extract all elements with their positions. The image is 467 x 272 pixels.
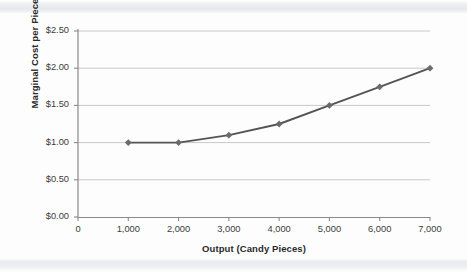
gridline-group bbox=[78, 31, 430, 180]
data-point-marker bbox=[376, 83, 383, 90]
y-tick-label: $1.00 bbox=[25, 137, 69, 147]
x-tick-label: 3,000 bbox=[207, 224, 251, 234]
chart-figure: Marginal Cost per Piece Output (Candy Pi… bbox=[0, 0, 467, 272]
data-point-marker bbox=[175, 139, 182, 146]
data-point-marker bbox=[326, 102, 333, 109]
data-point-marker bbox=[276, 121, 283, 128]
y-tick-label: $2.50 bbox=[25, 25, 69, 35]
x-tick-label: 5,000 bbox=[307, 224, 351, 234]
y-tick-label: $1.50 bbox=[25, 99, 69, 109]
x-tick-label: 7,000 bbox=[408, 224, 452, 234]
x-tick-label: 1,000 bbox=[106, 224, 150, 234]
tick-mark-group bbox=[74, 31, 430, 221]
y-tick-label: $0.50 bbox=[25, 174, 69, 184]
data-point-marker bbox=[225, 132, 232, 139]
x-tick-label: 0 bbox=[56, 224, 100, 234]
y-tick-label: $2.00 bbox=[25, 62, 69, 72]
y-tick-label: $0.00 bbox=[25, 211, 69, 221]
data-point-marker bbox=[125, 139, 132, 146]
x-tick-label: 2,000 bbox=[157, 224, 201, 234]
x-axis-title: Output (Candy Pieces) bbox=[78, 243, 430, 254]
data-point-marker bbox=[427, 65, 434, 72]
x-tick-label: 4,000 bbox=[257, 224, 301, 234]
x-tick-label: 6,000 bbox=[358, 224, 402, 234]
